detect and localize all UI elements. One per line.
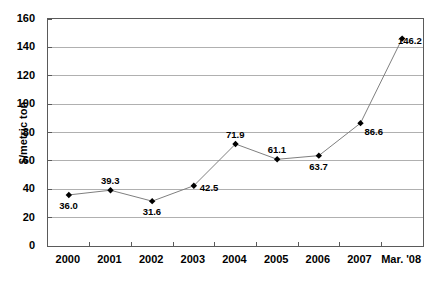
x-tick-label: 2005: [255, 252, 297, 266]
x-tick-label: Mar. '08: [380, 252, 422, 266]
data-point-label: 39.3: [101, 175, 120, 186]
x-tick-label: 2004: [214, 252, 256, 266]
x-axis-tick-labels: 20002001200220032004200520062007Mar. '08: [47, 252, 424, 272]
y-axis-tick-labels: 020406080100120140160: [0, 0, 41, 302]
y-tick-label: 0: [0, 240, 41, 250]
x-tick-label: 2000: [47, 252, 89, 266]
line-chart: $/metric ton 020406080100120140160 20002…: [0, 0, 442, 302]
data-point-label: 71.9: [226, 129, 245, 140]
y-tick-label: 100: [0, 98, 41, 108]
y-tick-label: 120: [0, 70, 41, 80]
x-tick-label: 2006: [297, 252, 339, 266]
data-point-label: 31.6: [143, 206, 162, 217]
data-point-label: 86.6: [365, 126, 384, 137]
x-tick-label: 2007: [339, 252, 381, 266]
data-point-marker: [149, 198, 155, 204]
x-tick-label: 2003: [172, 252, 214, 266]
data-point-marker: [274, 156, 280, 162]
y-tick-label: 80: [0, 127, 41, 137]
x-tick-label: 2002: [130, 252, 172, 266]
data-point-label: 63.7: [309, 161, 328, 172]
x-tick-label: 2001: [89, 252, 131, 266]
data-point-marker: [107, 187, 113, 193]
plot-area: 36.039.331.642.571.961.163.786.6146.2: [47, 18, 424, 247]
data-point-label: 146.2: [398, 35, 422, 46]
y-tick-label: 140: [0, 41, 41, 51]
data-point-label: 61.1: [268, 144, 287, 155]
y-tick-label: 20: [0, 212, 41, 222]
y-tick-label: 40: [0, 183, 41, 193]
data-point-label: 36.0: [59, 200, 78, 211]
data-point-marker: [66, 192, 72, 198]
data-point-label: 42.5: [200, 182, 219, 193]
y-tick-label: 60: [0, 155, 41, 165]
y-tick-label: 160: [0, 13, 41, 23]
